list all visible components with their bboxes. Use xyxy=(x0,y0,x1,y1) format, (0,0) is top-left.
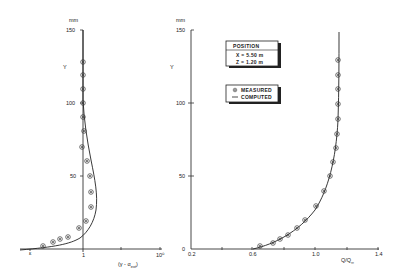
left-x-tick-label: ε xyxy=(29,250,32,256)
position-z: Z = 1.20 m xyxy=(236,59,264,65)
position-box: POSITION X = 5.50 m Z = 1.20 m xyxy=(226,41,281,68)
right-y-tick-label: 100 xyxy=(176,100,185,106)
right-y-unit: mm xyxy=(176,17,186,23)
position-x: X = 5.50 m xyxy=(236,52,264,58)
left-measured-points xyxy=(41,60,94,249)
left-x-label: (γ - αext) xyxy=(118,261,138,269)
measured-marker xyxy=(58,237,63,242)
position-title: POSITION xyxy=(233,43,259,49)
left-y-label: Y xyxy=(63,64,67,70)
right-x-tick-label: 1.0 xyxy=(312,251,320,257)
measured-marker xyxy=(88,174,93,179)
measured-marker xyxy=(84,219,89,224)
measured-marker xyxy=(336,73,341,78)
right-y-label: Y xyxy=(170,64,174,70)
measured-marker xyxy=(66,235,71,240)
right-x-tick-label: 0.2 xyxy=(188,251,196,257)
measured-marker xyxy=(295,226,300,231)
right-chart: mm Y 150 100 50 0 0.2 0.6 1.0 1.4 Q/Q∞ xyxy=(170,17,383,265)
measured-marker xyxy=(85,159,90,164)
right-x-tick-label: 0.6 xyxy=(249,251,257,257)
left-chart: mm Y 150 100 50 ε 1 10⁰ (γ - αext) xyxy=(20,17,165,269)
left-y-unit: mm xyxy=(69,17,79,23)
measured-marker xyxy=(278,237,283,242)
measured-marker xyxy=(336,87,341,92)
measured-marker xyxy=(286,233,291,238)
measured-marker xyxy=(336,58,341,63)
left-y-tick-label: 150 xyxy=(66,27,75,33)
measured-marker xyxy=(51,240,56,245)
measured-marker xyxy=(89,190,94,195)
legend-computed: COMPUTED xyxy=(241,94,272,100)
right-x-tick-label: 1.4 xyxy=(375,251,383,257)
right-x-label: Q/Q∞ xyxy=(341,257,354,265)
measured-marker xyxy=(77,226,82,231)
left-y-tick-label: 100 xyxy=(66,100,75,106)
right-y-tick-label: 150 xyxy=(176,27,185,33)
left-x-tick-label: 10⁰ xyxy=(156,252,165,258)
legend: MEASURED COMPUTED xyxy=(226,85,281,104)
measured-marker xyxy=(80,145,85,150)
right-y-tick-label: 50 xyxy=(179,173,185,179)
measured-marker xyxy=(89,205,94,210)
left-x-tick-label: 1 xyxy=(82,252,85,258)
legend-measured: MEASURED xyxy=(241,87,272,93)
right-y-tick-label: 0 xyxy=(182,246,185,252)
figure: mm Y 150 100 50 ε 1 10⁰ (γ - αext) xyxy=(0,0,397,277)
left-y-tick-label: 50 xyxy=(70,173,76,179)
